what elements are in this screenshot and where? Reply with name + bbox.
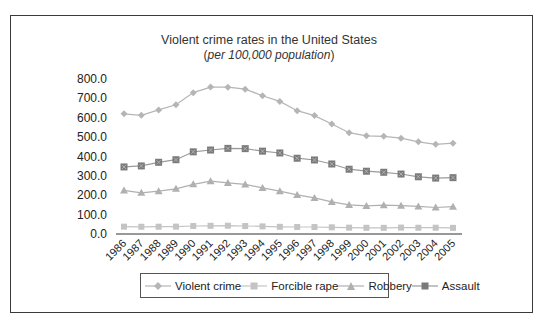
- chart-legend: Violent crime Forcible rape Robbery Assa…: [140, 273, 389, 298]
- data-point: [415, 138, 422, 145]
- y-tick-label: 800.0: [77, 72, 107, 86]
- y-tick-label: 600.0: [77, 111, 107, 125]
- series-line: [124, 181, 453, 207]
- square-marker-icon: [241, 281, 267, 291]
- legend-label: Assault: [442, 280, 480, 292]
- y-tick-label: 100.0: [77, 208, 107, 222]
- data-point: [381, 225, 387, 231]
- data-point: [433, 225, 439, 231]
- y-tick-label: 400.0: [77, 150, 107, 164]
- diamond-marker-icon: [145, 281, 171, 291]
- legend-item-robbery: Robbery: [338, 280, 411, 292]
- data-point: [311, 112, 318, 119]
- legend-item-forcible-rape: Forcible rape: [241, 280, 338, 292]
- data-point: [260, 223, 266, 229]
- data-point: [380, 133, 387, 140]
- data-point: [328, 121, 335, 128]
- data-point: [415, 225, 421, 231]
- data-point: [156, 224, 162, 230]
- data-point: [294, 224, 300, 230]
- y-tick-label: 0.0: [90, 227, 107, 241]
- data-point: [259, 92, 266, 99]
- data-point: [121, 110, 128, 117]
- data-point: [242, 86, 249, 93]
- triangle-marker-icon: [338, 281, 364, 291]
- data-point: [277, 224, 283, 230]
- data-point: [138, 224, 144, 230]
- data-point: [173, 224, 179, 230]
- data-point: [207, 177, 215, 184]
- data-point: [190, 89, 197, 96]
- data-point: [329, 224, 335, 230]
- data-point: [208, 223, 214, 229]
- legend-label: Forcible rape: [271, 280, 338, 292]
- data-point: [346, 129, 353, 136]
- data-point: [398, 135, 405, 142]
- data-point: [225, 223, 231, 229]
- data-point: [450, 140, 457, 147]
- data-point: [121, 224, 127, 230]
- y-tick-label: 500.0: [77, 130, 107, 144]
- data-point: [120, 186, 128, 193]
- data-point: [155, 106, 162, 113]
- data-point: [224, 84, 231, 91]
- data-point: [363, 225, 369, 231]
- data-point: [242, 223, 248, 229]
- legend-item-violent-crime: Violent crime: [145, 280, 241, 292]
- legend-label: Robbery: [368, 280, 411, 292]
- data-point: [294, 107, 301, 114]
- legend-item-assault: Assault: [412, 280, 480, 292]
- data-point: [346, 225, 352, 231]
- y-tick-label: 200.0: [77, 188, 107, 202]
- data-point: [432, 141, 439, 148]
- series-line: [124, 87, 453, 144]
- data-point: [138, 112, 145, 119]
- data-point: [363, 132, 370, 139]
- data-point: [207, 84, 214, 91]
- data-point: [450, 225, 456, 231]
- legend-label: Violent crime: [175, 280, 241, 292]
- y-tick-label: 700.0: [77, 91, 107, 105]
- data-point: [276, 98, 283, 105]
- y-tick-label: 300.0: [77, 169, 107, 183]
- data-point: [190, 223, 196, 229]
- data-point: [398, 225, 404, 231]
- data-point: [311, 224, 317, 230]
- square-x-marker-icon: [412, 281, 438, 291]
